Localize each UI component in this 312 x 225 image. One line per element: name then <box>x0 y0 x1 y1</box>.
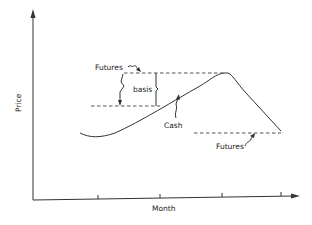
y-axis-label: Price <box>14 93 23 112</box>
price-month-diagram: Futures basis Cash Futures Month Price <box>0 0 312 225</box>
futures-bottom-pointer-icon <box>245 136 253 146</box>
cash-arrowhead-icon <box>176 94 180 100</box>
basis-label: basis <box>133 85 152 94</box>
y-axis <box>31 9 36 200</box>
futures-top-label: Futures <box>95 63 123 72</box>
basis-brace-icon <box>156 73 158 106</box>
y-axis-arrow-icon <box>31 9 36 18</box>
futures-bottom-arrowhead-icon <box>250 133 255 138</box>
basis-left-arrowhead-icon <box>118 100 122 106</box>
cash-label: Cash <box>164 121 183 130</box>
cash-pointer-icon <box>175 98 178 118</box>
x-axis-label: Month <box>152 204 176 213</box>
futures-bottom-label: Futures <box>216 142 244 151</box>
futures-top-pointer-icon <box>128 65 138 69</box>
x-axis-arrow-icon <box>291 194 300 199</box>
x-axis <box>33 192 300 200</box>
basis-left-pointer-icon <box>120 74 124 102</box>
